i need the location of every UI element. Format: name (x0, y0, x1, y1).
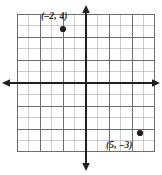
coordinate-plane-figure: (–2, 4) (5, –3) (0, 0, 162, 175)
y-axis-arrow-bottom (82, 163, 90, 171)
point-b-label: (5, –3) (106, 141, 133, 151)
x-axis-arrow-left (2, 79, 10, 87)
y-axis-arrow-top (82, 5, 90, 13)
y-axis (82, 5, 90, 171)
plotted-point-a (60, 26, 66, 32)
x-axis (2, 79, 160, 87)
x-axis-arrow-right (152, 79, 160, 87)
plotted-point-b (137, 130, 143, 136)
coordinate-plane-svg (0, 0, 162, 175)
point-a-label: (–2, 4) (41, 12, 68, 22)
